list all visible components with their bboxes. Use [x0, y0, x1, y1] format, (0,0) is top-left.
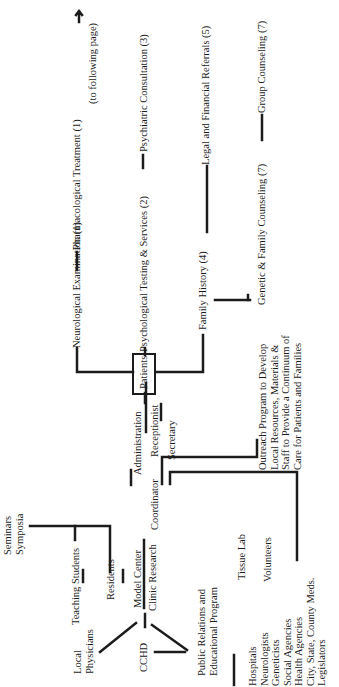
node-local-physicians: Local Physicians: [72, 629, 95, 674]
line-patients-family: [157, 335, 203, 372]
node-residents: Residents: [105, 559, 117, 600]
node-receptionist: Receptionist: [149, 405, 161, 458]
node-tissue-lab: Tissue Lab: [236, 534, 248, 580]
node-outreach: Outreach Program to Develop Local Resour…: [257, 335, 303, 470]
org-diagram: Patients Neurological Examination (1) Ph…: [0, 0, 339, 687]
node-model-center: Model Center: [132, 550, 144, 608]
line-cchd-physicians: [100, 623, 136, 652]
node-public-relations: Public Relations and Educational Program: [196, 587, 219, 676]
node-patients: Patients: [138, 356, 150, 389]
node-volunteers: Volunteers: [262, 537, 274, 582]
line-patients-neuro: [77, 348, 133, 372]
node-teaching-students: Teaching Students: [70, 548, 82, 625]
node-psychiatric-consult: Psychiatric Consultation (3): [138, 34, 150, 152]
node-genetic-family: Genetic & Family Counseling (7): [256, 164, 268, 305]
node-secretary: Secretary: [166, 420, 178, 460]
node-legal-financial: Legal and Financial Referrals (5): [200, 26, 212, 165]
line-coordinator-volunteers: [170, 472, 297, 560]
node-family-history: Family History (4): [197, 251, 209, 330]
node-group-counseling: Group Counseling (7): [256, 21, 268, 113]
node-cchd: CCHD: [138, 643, 150, 672]
node-seminars: Seminars Symposia: [2, 514, 25, 555]
node-community: Hospitals Neurologists Geneticists Socia…: [247, 578, 328, 686]
node-pharmacological: Pharmacological Treatment (1): [71, 119, 83, 250]
node-coordinator: Coordinator: [149, 479, 161, 530]
node-following-page: (to following page): [87, 23, 99, 104]
node-clinic-research: Clinic Research: [147, 544, 159, 611]
node-psych-testing: Psychological Testing & Services (2): [138, 196, 150, 352]
node-administration: Administration: [132, 411, 144, 475]
line-cchd-pr: [152, 625, 187, 650]
